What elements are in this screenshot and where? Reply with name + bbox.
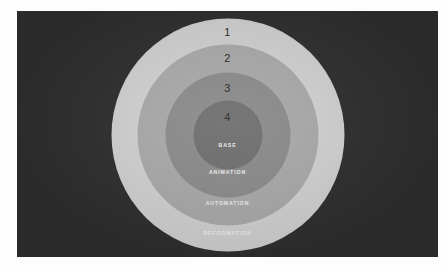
ring-number-3: 3 <box>224 83 230 94</box>
ring-label-deformation: DEFORMATION <box>203 231 251 236</box>
ring-label-base: BASE <box>218 143 236 148</box>
ring-label-automation: AUTOMATION <box>206 201 250 206</box>
diagram-canvas: 1 2 3 4 BASE ANIMATION AUTOMATION DEFORM… <box>17 11 438 257</box>
ring-number-1: 1 <box>224 27 230 38</box>
concentric-ring-diagram: 1 2 3 4 BASE ANIMATION AUTOMATION DEFORM… <box>17 11 438 257</box>
ring-number-4: 4 <box>224 112 230 123</box>
ring-label-animation: ANIMATION <box>209 170 246 175</box>
screenshot-root: 1 2 3 4 BASE ANIMATION AUTOMATION DEFORM… <box>0 0 448 271</box>
ring-number-2: 2 <box>224 53 230 64</box>
